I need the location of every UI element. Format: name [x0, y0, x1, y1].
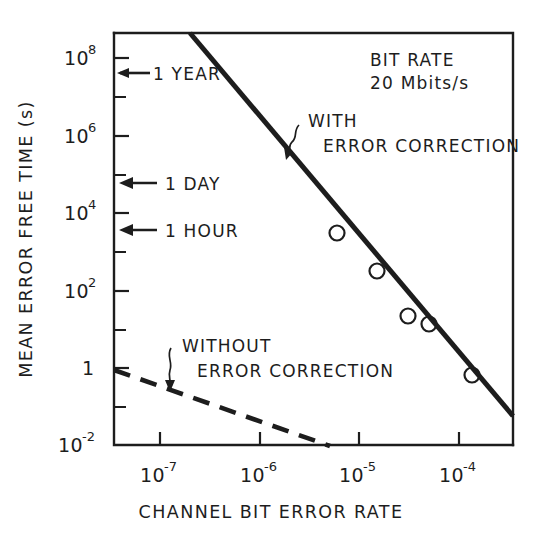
marker-1-day-label: 1 DAY [165, 174, 221, 194]
data-point [330, 226, 345, 241]
curve-without-error-correction [114, 370, 330, 446]
data-points [330, 226, 480, 383]
annotation-with-error-correction: WITH ERROR CORRECTION [308, 111, 520, 156]
marker-1-hour: 1 HOUR [119, 221, 239, 241]
marker-1-year-label: 1 YEAR [153, 64, 221, 84]
chart-svg: 10 8 10 6 10 4 10 2 1 10 -2 10 -7 10 -6 … [0, 0, 542, 545]
xtick-label-1e-4-mantissa: 10 [439, 464, 464, 486]
x-axis-title: CHANNEL BIT ERROR RATE [139, 502, 404, 522]
ytick-label-1-mantissa: 1 [82, 357, 94, 379]
ytick-label-1e6-exponent: 6 [88, 120, 96, 135]
bit-rate-line-1: BIT RATE [370, 50, 455, 70]
ytick-label-1e4-mantissa: 10 [64, 202, 89, 224]
ytick-label-1e4-exponent: 4 [88, 197, 96, 212]
annotation-bit-rate: BIT RATE 20 Mbits/s [370, 50, 469, 93]
marker-1-day: 1 DAY [119, 174, 221, 194]
without-error-correction-line-1: WITHOUT [182, 336, 272, 356]
data-point [401, 309, 416, 324]
with-error-correction-line-1: WITH [308, 111, 358, 131]
leader-without-squiggle [169, 348, 171, 385]
bit-rate-line-2: 20 Mbits/s [370, 73, 469, 93]
with-error-correction-line-2: ERROR CORRECTION [323, 136, 520, 156]
arrow-1-hour-head [119, 224, 133, 236]
xtick-label-1e-4-exponent: -4 [463, 459, 476, 474]
figure-container: 10 8 10 6 10 4 10 2 1 10 -2 10 -7 10 -6 … [0, 0, 542, 545]
marker-1-hour-label: 1 HOUR [165, 221, 239, 241]
ytick-label-1e2-exponent: 2 [88, 275, 96, 290]
leader-without-error-correction [165, 348, 175, 392]
y-axis-title: MEAN ERROR FREE TIME (s) [16, 100, 36, 378]
y-tick-labels: 10 8 10 6 10 4 10 2 1 10 -2 [58, 42, 96, 456]
xtick-label-1e-6-exponent: -6 [264, 459, 277, 474]
arrow-1-year-head [117, 68, 129, 78]
ytick-label-1e6-mantissa: 10 [64, 125, 89, 147]
data-point [370, 264, 385, 279]
ytick-label-1e-2-exponent: -2 [82, 429, 95, 444]
ytick-label-1e-2-mantissa: 10 [58, 434, 83, 456]
without-error-correction-line-2: ERROR CORRECTION [197, 361, 394, 381]
arrow-1-day-head [119, 177, 133, 189]
ytick-label-1e8-mantissa: 10 [64, 47, 89, 69]
x-tick-labels: 10 -7 10 -6 10 -5 10 -4 [140, 459, 476, 486]
xtick-label-1e-5-mantissa: 10 [339, 464, 364, 486]
xtick-label-1e-5-exponent: -5 [363, 459, 376, 474]
xtick-label-1e-7-exponent: -7 [164, 459, 177, 474]
xtick-label-1e-7-mantissa: 10 [140, 464, 165, 486]
ytick-label-1e8-exponent: 8 [88, 42, 96, 57]
ytick-label-1e2-mantissa: 10 [64, 280, 89, 302]
annotation-without-error-correction: WITHOUT ERROR CORRECTION [182, 336, 394, 381]
xtick-label-1e-6-mantissa: 10 [240, 464, 265, 486]
marker-1-year: 1 YEAR [117, 64, 221, 84]
